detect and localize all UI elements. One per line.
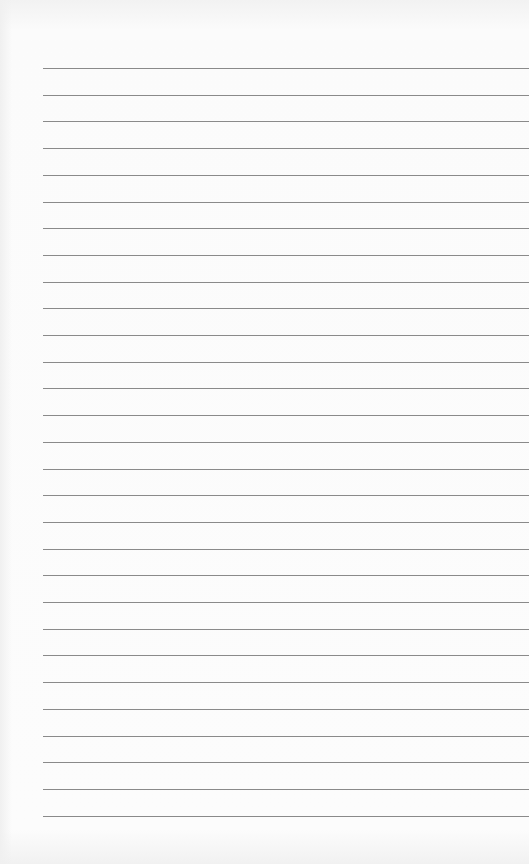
- ruled-line: [43, 549, 529, 550]
- ruled-line: [43, 736, 529, 737]
- ruled-line: [43, 522, 529, 523]
- ruled-line: [43, 148, 529, 149]
- ruled-line: [43, 469, 529, 470]
- ruled-line: [43, 789, 529, 790]
- ruled-line: [43, 629, 529, 630]
- ruled-line: [43, 388, 529, 389]
- ruled-line: [43, 335, 529, 336]
- ruled-line: [43, 415, 529, 416]
- ruled-line: [43, 121, 529, 122]
- ruled-line: [43, 95, 529, 96]
- ruled-line: [43, 816, 529, 817]
- ruled-line: [43, 282, 529, 283]
- ruled-line: [43, 68, 529, 69]
- ruled-line: [43, 495, 529, 496]
- ruled-line: [43, 709, 529, 710]
- ruled-line: [43, 602, 529, 603]
- ruled-line: [43, 682, 529, 683]
- ruled-line: [43, 228, 529, 229]
- ruled-line: [43, 255, 529, 256]
- ruled-line: [43, 175, 529, 176]
- ruled-line: [43, 575, 529, 576]
- ruled-line: [43, 362, 529, 363]
- ruled-line: [43, 202, 529, 203]
- ruled-line: [43, 762, 529, 763]
- lined-paper-sheet: [0, 0, 529, 864]
- ruled-line: [43, 442, 529, 443]
- ruled-line: [43, 308, 529, 309]
- ruled-line: [43, 655, 529, 656]
